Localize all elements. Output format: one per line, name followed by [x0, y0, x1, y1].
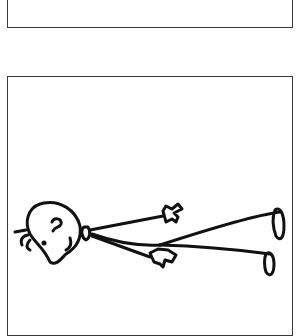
head-icon [27, 202, 80, 263]
eye-icon [42, 241, 47, 246]
